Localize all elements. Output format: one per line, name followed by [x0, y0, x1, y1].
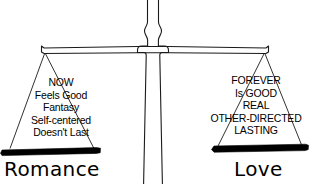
left-cord-inner	[46, 54, 95, 149]
left-cord-outer	[10, 54, 45, 149]
right-cord-inner	[218, 54, 264, 146]
scale-beam-right-cap	[266, 46, 269, 54]
scale-post-right-edge	[158, 0, 168, 184]
balance-scale-diagram: NOW Feels Good Fantasy Self-centered Doe…	[0, 0, 326, 184]
scale-beam-top	[44, 47, 266, 49]
scale-illustration	[0, 0, 326, 184]
left-pan	[1, 148, 101, 156]
right-pan	[212, 144, 309, 152]
right-cord-outer	[265, 54, 302, 146]
scale-post-left-edge	[138, 0, 148, 184]
scale-beam-bottom	[44, 53, 266, 54]
scale-beam-left-cap	[42, 46, 45, 54]
